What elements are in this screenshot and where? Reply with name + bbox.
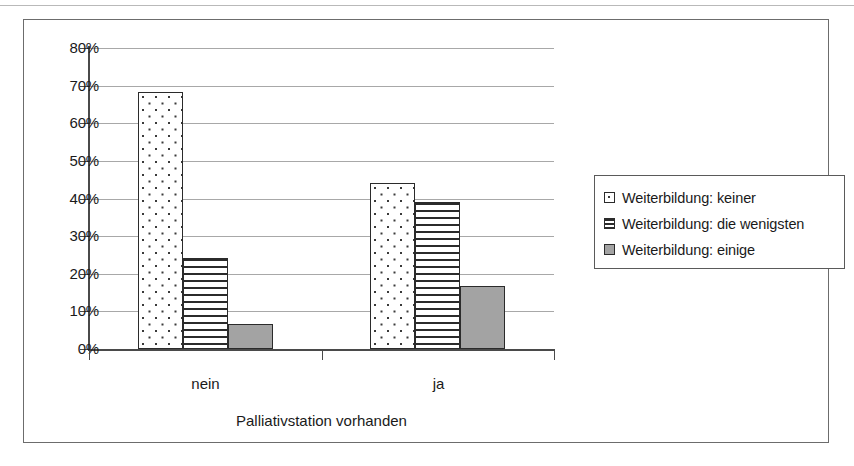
chart-frame: 0%10%20%30%40%50%60%70%80% neinja Pallia… (23, 19, 829, 443)
gridline (89, 48, 554, 49)
y-axis-tick-label: 40% (50, 191, 99, 206)
y-axis-tick-label: 70% (50, 78, 99, 93)
legend-item[interactable]: Weiterbildung: einige (604, 237, 844, 262)
legend-item-label: Weiterbildung: keiner (622, 190, 756, 206)
bar (228, 324, 273, 349)
x-axis-category-label: ja (322, 375, 555, 392)
y-axis-tick-label: 0% (50, 341, 99, 356)
bar (183, 258, 228, 349)
y-axis-tick-label: 10% (50, 303, 99, 318)
y-axis-tick-label: 30% (50, 228, 99, 243)
legend-item-label: Weiterbildung: einige (622, 242, 755, 258)
legend-item-label: Weiterbildung: die wenigsten (622, 216, 804, 232)
bar (370, 183, 415, 349)
dotted-swatch-icon (604, 192, 615, 203)
y-axis-labels-group: 0%10%20%30%40%50%60%70%80% (24, 20, 99, 466)
x-axis-category-label: nein (89, 375, 322, 392)
solid-gray-swatch-icon (604, 244, 615, 255)
bar (415, 202, 460, 349)
y-axis-tick-label: 60% (50, 115, 99, 130)
legend-item[interactable]: Weiterbildung: keiner (604, 185, 844, 210)
y-axis-tick-label: 20% (50, 266, 99, 281)
hlines-swatch-icon (604, 218, 615, 229)
x-axis-tick (322, 351, 323, 360)
y-axis-tick-label: 80% (50, 40, 99, 55)
legend-item[interactable]: Weiterbildung: die wenigsten (604, 211, 844, 236)
bar (460, 286, 505, 349)
y-axis-tick-label: 50% (50, 153, 99, 168)
x-axis-title: Palliativstation vorhanden (89, 412, 554, 429)
bar (138, 92, 183, 349)
scan-artifact-line (0, 5, 854, 6)
x-axis-tick (89, 351, 90, 360)
gridline (89, 86, 554, 87)
x-axis-tick (554, 351, 555, 360)
chart-legend: Weiterbildung: keiner Weiterbildung: die… (594, 175, 845, 269)
